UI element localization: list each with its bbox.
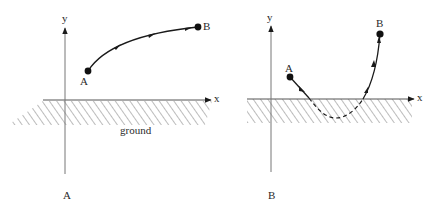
x-axis-label-a: x xyxy=(214,93,220,104)
panel-caption-a: A xyxy=(63,190,71,201)
direction-arrow-icon xyxy=(114,44,121,50)
point-a-start xyxy=(85,68,92,75)
panel-a xyxy=(8,24,212,174)
point-label-b-start: A xyxy=(285,63,293,74)
direction-arrow-icon xyxy=(371,60,376,67)
trajectory-a xyxy=(88,27,198,71)
ground-label: ground xyxy=(120,125,151,136)
point-a-end xyxy=(195,24,202,31)
y-axis-label-b: y xyxy=(267,12,273,23)
direction-arrow-icon xyxy=(364,87,368,93)
point-label-a-end: B xyxy=(203,21,210,32)
diagram-canvas xyxy=(0,0,433,210)
direction-arrow-icon xyxy=(148,33,156,38)
point-label-b-end: B xyxy=(376,18,383,29)
panel-b xyxy=(247,26,414,172)
ground-hatch-b xyxy=(247,99,412,123)
point-b-start xyxy=(287,74,294,81)
ground-hatch-a xyxy=(8,101,212,125)
y-axis-label-a: y xyxy=(62,13,68,24)
point-b-end xyxy=(376,30,383,37)
figure: y x A B ground A y x A B B xyxy=(0,0,433,210)
point-label-a-start: A xyxy=(80,76,88,87)
direction-arrow-icon xyxy=(299,86,305,92)
x-axis-label-b: x xyxy=(417,92,423,103)
panel-caption-b: B xyxy=(268,190,275,201)
